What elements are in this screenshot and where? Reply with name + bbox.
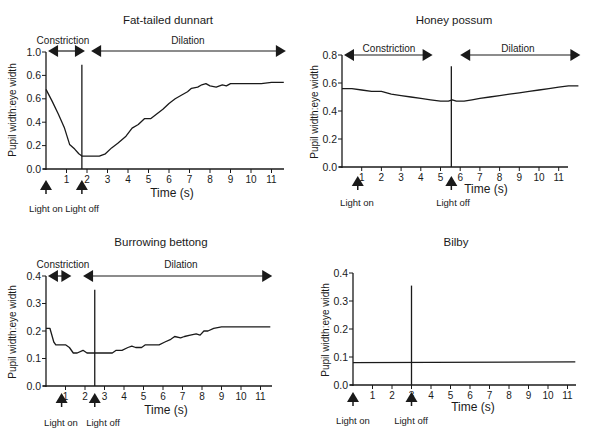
arrowhead-left-icon [91, 45, 101, 57]
x-tick-label: 5 [141, 391, 147, 402]
y-tick-label: 0.2 [322, 133, 337, 145]
y-tick-label: 0.0 [26, 380, 41, 392]
x-tick-label: 11 [554, 172, 565, 183]
x-tick-label: 6 [467, 390, 473, 401]
x-tick-label: 9 [219, 391, 225, 402]
x-tick-label: 7 [187, 174, 193, 185]
up-arrow-icon [40, 180, 52, 190]
y-tick-label: 0.4 [333, 267, 348, 279]
constriction-label: Constriction [37, 35, 90, 46]
y-tick-label: 0.3 [333, 295, 348, 307]
x-tick-label: 3 [102, 391, 108, 402]
arrowhead-left-icon [344, 49, 354, 61]
y-tick-label: 0.1 [333, 351, 348, 363]
up-arrow-icon [89, 393, 101, 403]
x-tick-label: 8 [506, 390, 512, 401]
x-tick-label: 11 [266, 174, 277, 185]
y-tick-label: 0.6 [26, 69, 41, 81]
data-line [342, 86, 578, 101]
up-arrow-icon [347, 392, 359, 402]
arrowhead-left-icon [460, 49, 470, 61]
x-tick-label: 11 [255, 391, 266, 402]
x-tick-label: 10 [542, 390, 554, 401]
x-axis-label: Time (s) [451, 400, 495, 414]
light-off-label: Light off [436, 197, 470, 208]
chart-title: Burrowing bettong [114, 236, 207, 248]
y-axis-label: Pupil width:eye width [320, 283, 331, 376]
x-tick-label: 5 [438, 172, 444, 183]
panel-bilby: Bilby Pupil width:eye width Time (s) Lig… [320, 236, 576, 426]
constriction-label: Constriction [37, 259, 90, 270]
chart-title: Bilby [444, 236, 469, 248]
panel-honey-possum: Honey possum Constriction Dilation Pupil… [309, 14, 580, 208]
light-off-label: Light off [394, 415, 428, 426]
y-tick-label: 0.2 [26, 139, 41, 151]
constriction-label: Constriction [363, 43, 416, 54]
x-tick-label: 3 [105, 174, 111, 185]
arrowhead-left-icon [48, 270, 58, 282]
light-on-label: Light on [44, 417, 78, 428]
y-axis-label: Pupil width:eye width [7, 285, 18, 378]
x-tick-label: 10 [235, 391, 247, 402]
x-tick-label: 4 [121, 391, 127, 402]
y-tick-label: 0.0 [26, 163, 41, 175]
arrowhead-right-icon [570, 49, 580, 61]
up-arrow-icon [406, 392, 418, 402]
y-tick-label: 0.4 [26, 270, 41, 282]
arrowhead-left-icon [83, 270, 93, 282]
y-tick-label: 0.2 [26, 325, 41, 337]
x-tick-label: 5 [146, 174, 152, 185]
light-on-label: Light on [29, 203, 63, 214]
y-tick-label: 0.6 [322, 77, 337, 89]
y-tick-label: 0.8 [322, 49, 337, 61]
light-off-label: Light off [86, 417, 120, 428]
x-tick-label: 2 [84, 174, 90, 185]
y-axis-label: Pupil width:eye width [309, 65, 320, 158]
x-tick-label: 4 [125, 174, 131, 185]
x-axis-label: Time (s) [464, 182, 508, 196]
y-tick-label: 0.4 [26, 116, 41, 128]
x-tick-label: 1 [64, 174, 70, 185]
plot-area: 0.00.20.40.60.81234567891011 [322, 49, 580, 191]
x-tick-label: 6 [457, 172, 463, 183]
x-tick-label: 1 [370, 390, 376, 401]
x-tick-label: 8 [199, 391, 205, 402]
arrowhead-left-icon [48, 45, 58, 57]
x-tick-label: 4 [418, 172, 424, 183]
x-tick-label: 5 [448, 390, 454, 401]
x-tick-label: 9 [228, 174, 234, 185]
chart-title: Honey possum [416, 14, 493, 26]
x-tick-label: 10 [533, 172, 545, 183]
x-axis-label: Time (s) [150, 186, 194, 200]
x-tick-label: 2 [389, 390, 395, 401]
data-line [353, 362, 575, 363]
y-tick-label: 0.1 [26, 352, 41, 364]
arrowhead-right-icon [61, 270, 71, 282]
y-axis-label: Pupil width:eye width [7, 63, 18, 156]
arrowhead-right-icon [423, 49, 433, 61]
x-tick-label: 9 [517, 172, 523, 183]
dilation-label: Dilation [171, 35, 204, 46]
x-tick-label: 3 [398, 172, 404, 183]
y-tick-label: 0.3 [26, 297, 41, 309]
panel-fat-tailed-dunnart: Fat-tailed dunnart Constriction Dilation… [7, 14, 286, 214]
x-tick-label: 2 [379, 172, 385, 183]
charts-canvas: Fat-tailed dunnart Constriction Dilation… [0, 0, 591, 436]
x-tick-label: 6 [166, 174, 172, 185]
plot-area: 0.00.10.20.30.41234567891011 [26, 270, 272, 408]
light-on-label: Light on [340, 197, 374, 208]
panel-burrowing-bettong: Burrowing bettong Constriction Dilation … [7, 236, 272, 428]
arrowhead-right-icon [75, 45, 85, 57]
x-tick-label: 7 [487, 390, 493, 401]
plot-area: 0.00.20.40.60.61.01234567891011 [26, 45, 285, 194]
dilation-label: Dilation [164, 259, 197, 270]
x-tick-label: 6 [160, 391, 166, 402]
light-on-label: Light on [336, 415, 370, 426]
figure: Fat-tailed dunnart Constriction Dilation… [0, 0, 591, 436]
x-tick-label: 7 [180, 391, 186, 402]
x-axis-label: Time (s) [144, 403, 188, 417]
chart-title: Fat-tailed dunnart [123, 14, 214, 26]
x-tick-label: 4 [428, 390, 434, 401]
y-tick-label: 0.2 [333, 323, 348, 335]
light-off-label: Light off [65, 203, 99, 214]
